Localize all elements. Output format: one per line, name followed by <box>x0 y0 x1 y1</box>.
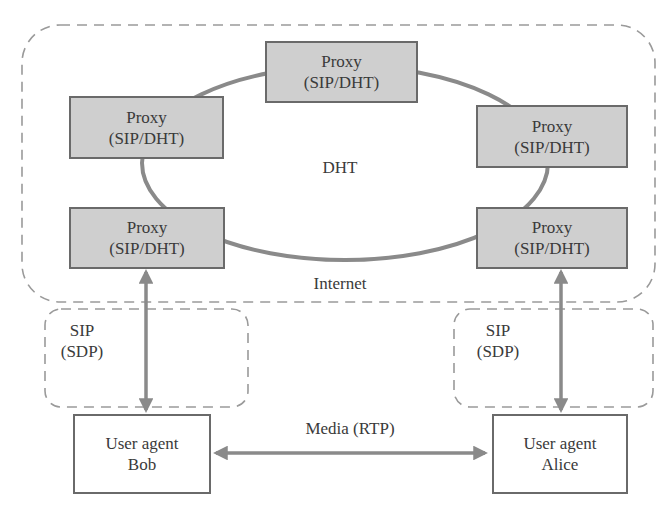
proxy-sublabel: (SIP/DHT) <box>514 238 590 259</box>
sip-right-line2: (SDP) <box>468 341 528 362</box>
dht-label: DHT <box>300 157 380 178</box>
ua-name: Bob <box>128 454 156 475</box>
internet-label: Internet <box>290 273 390 294</box>
proxy-right-lower: Proxy (SIP/DHT) <box>476 207 628 269</box>
ua-label: User agent <box>105 433 178 454</box>
user-agent-alice: User agent Alice <box>492 414 628 494</box>
proxy-sublabel: (SIP/DHT) <box>514 137 590 158</box>
proxy-sublabel: (SIP/DHT) <box>304 72 380 93</box>
sip-left-line1: SIP <box>52 320 112 341</box>
proxy-top: Proxy (SIP/DHT) <box>265 41 418 103</box>
ua-label: User agent <box>523 433 596 454</box>
proxy-label: Proxy <box>127 217 168 238</box>
proxy-left-upper: Proxy (SIP/DHT) <box>69 96 224 159</box>
proxy-label: Proxy <box>532 217 573 238</box>
media-label: Media (RTP) <box>280 418 420 439</box>
ua-name: Alice <box>542 454 579 475</box>
sip-right-label: SIP (SDP) <box>468 320 528 362</box>
sip-left-line2: (SDP) <box>52 341 112 362</box>
proxy-left-lower: Proxy (SIP/DHT) <box>69 207 225 269</box>
user-agent-bob: User agent Bob <box>73 414 211 494</box>
sip-right-line1: SIP <box>468 320 528 341</box>
sip-left-label: SIP (SDP) <box>52 320 112 362</box>
proxy-label: Proxy <box>532 116 573 137</box>
proxy-sublabel: (SIP/DHT) <box>109 238 185 259</box>
proxy-sublabel: (SIP/DHT) <box>109 128 185 149</box>
proxy-label: Proxy <box>126 107 167 128</box>
proxy-right-upper: Proxy (SIP/DHT) <box>476 105 628 168</box>
proxy-label: Proxy <box>321 51 362 72</box>
